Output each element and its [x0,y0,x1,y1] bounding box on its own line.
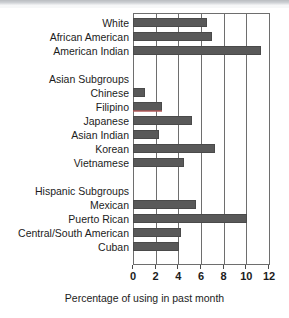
category-label: Chinese [90,86,129,100]
chart-row: African American [0,30,289,44]
tick-mark-4 [177,265,178,269]
tick-label-4: 4 [166,270,190,282]
bar [133,144,215,153]
bar [133,242,179,251]
chart-rows: WhiteAfrican AmericanAmerican IndianAsia… [0,13,289,265]
bar [133,46,261,55]
bar [133,214,247,223]
chart-row: Central/South American [0,226,289,240]
x-axis-title: Percentage of using in past month [0,292,289,304]
chart-row: Vietnamese [0,156,289,170]
category-label: Asian Indian [71,128,129,142]
tick-label-6: 6 [189,270,213,282]
bar [133,200,196,209]
group-header-label: Hispanic Subgroups [35,184,129,198]
bar [133,88,145,97]
chart-row: Japanese [0,114,289,128]
bar [133,32,212,41]
category-label: Filipino [96,100,129,114]
scan-artifact-band-lower [0,5,289,8]
chart-row: Cuban [0,240,289,254]
category-label: Central/South American [18,226,129,240]
chart-row: Asian Indian [0,128,289,142]
category-label: White [102,16,129,30]
tick-mark-12 [268,265,269,269]
bar-annotation-underline [133,110,162,112]
tick-label-2: 2 [144,270,168,282]
bar [133,116,192,125]
tick-mark-0 [132,265,133,269]
category-label: Korean [95,142,129,156]
chart-row: White [0,16,289,30]
tick-mark-6 [200,265,201,269]
chart-row: American Indian [0,44,289,58]
tick-label-12: 12 [257,270,281,282]
chart-row [0,58,289,72]
category-label: Mexican [90,198,129,212]
tick-label-0: 0 [121,270,145,282]
bar [133,228,181,237]
chart-row: Filipino [0,100,289,114]
chart-row: Mexican [0,198,289,212]
bar [133,158,184,167]
tick-label-8: 8 [212,270,236,282]
tick-mark-2 [155,265,156,269]
category-label: African American [50,30,129,44]
chart-row: Hispanic Subgroups [0,184,289,198]
group-header-label: Asian Subgroups [49,72,129,86]
category-label: American Indian [53,44,129,58]
chart-row: Chinese [0,86,289,100]
category-label: Vietnamese [74,156,129,170]
bar [133,130,159,139]
chart-row: Asian Subgroups [0,72,289,86]
chart-row: Puerto Rican [0,212,289,226]
chart-row: Korean [0,142,289,156]
tick-mark-10 [245,265,246,269]
chart-row [0,170,289,184]
category-label: Japanese [83,114,129,128]
tick-label-10: 10 [234,270,258,282]
x-axis-ticks: 024681012 [0,265,289,285]
category-label: Puerto Rican [68,212,129,226]
category-label: Cuban [98,240,129,254]
bar-chart-figure: WhiteAfrican AmericanAmerican IndianAsia… [0,0,289,318]
tick-mark-8 [223,265,224,269]
bar [133,18,207,27]
